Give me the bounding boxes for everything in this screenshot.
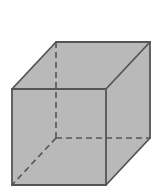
cube-diagram bbox=[0, 0, 164, 194]
